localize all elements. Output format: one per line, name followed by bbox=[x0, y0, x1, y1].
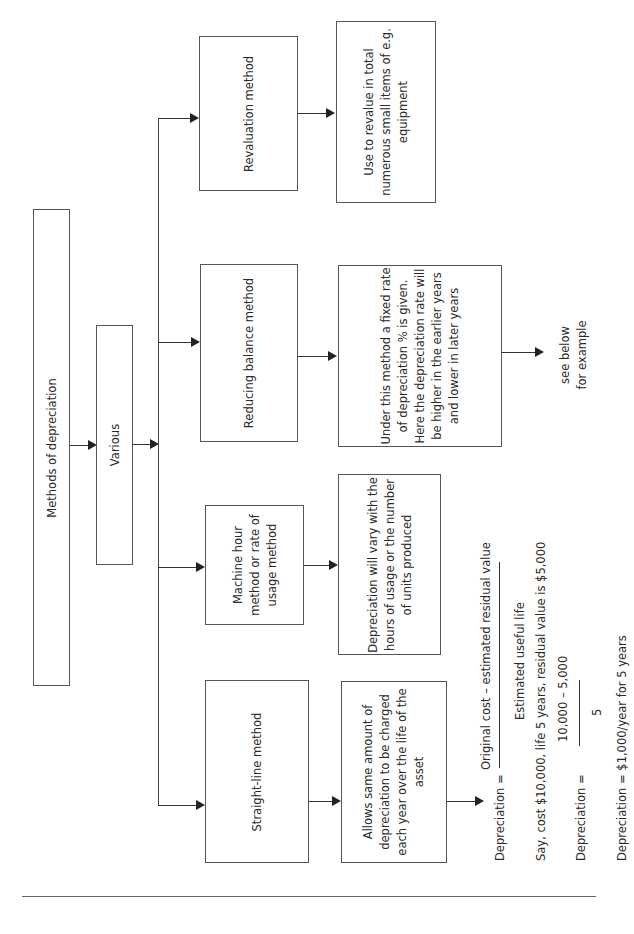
method-node-revaluation: Revaluation method bbox=[199, 36, 298, 191]
formula-lhs: Depreciation = bbox=[493, 774, 507, 861]
method-node-straight-line: Straight-line method bbox=[205, 680, 309, 863]
connector-trunk-to-revaluation bbox=[158, 118, 191, 119]
method-label: Revaluation method bbox=[240, 55, 257, 171]
connector-to-see-below-note bbox=[502, 352, 536, 353]
example-numerator: 10,000 – 5,000 bbox=[556, 656, 570, 742]
formula-denominator: Estimated useful life bbox=[513, 602, 527, 720]
description-line: Depreciation will vary with the bbox=[364, 477, 381, 653]
formula-result: Depreciation = $1,000/year for 5 years bbox=[615, 635, 629, 861]
arrowhead-icon bbox=[326, 108, 335, 118]
arrowhead-icon bbox=[328, 351, 337, 361]
arrowhead-icon bbox=[196, 562, 205, 572]
description-node-reducing-balance: Under this method a fixed rate of deprec… bbox=[338, 265, 502, 447]
description-line: Allows same amount of bbox=[360, 688, 377, 855]
description-line: of units produced bbox=[398, 477, 415, 653]
connector-various-to-trunk bbox=[133, 444, 150, 445]
connector-straight-line-to-description bbox=[309, 801, 333, 802]
connector-trunk-to-straight-line bbox=[158, 805, 197, 806]
various-node: Various bbox=[96, 325, 133, 565]
description-line: of depreciation % is given. bbox=[395, 268, 412, 445]
connector-to-formula bbox=[447, 801, 476, 802]
branch-trunk-line bbox=[158, 118, 159, 806]
description-node-machine-hour: Depreciation will vary with the hours of… bbox=[338, 474, 441, 655]
example-fraction-bar bbox=[579, 680, 580, 746]
arrowhead-icon bbox=[332, 796, 341, 806]
description-line: Use to revalue in total bbox=[361, 28, 378, 196]
connector-revaluation-to-description bbox=[298, 113, 327, 114]
description-line: hours of usage or the number bbox=[381, 477, 398, 653]
note-line: for example bbox=[574, 321, 591, 390]
description-line: each year over the life of the bbox=[394, 688, 411, 855]
connector-machine-hour-to-description bbox=[304, 565, 330, 566]
root-node-methods-of-depreciation: Methods of depreciation bbox=[33, 209, 70, 686]
method-node-reducing-balance: Reducing balance method bbox=[200, 264, 298, 442]
method-label: Straight-line method bbox=[249, 712, 266, 831]
method-node-machine-hour: Machine hour method or rate of usage met… bbox=[205, 505, 304, 625]
description-line: Under this method a fixed rate bbox=[378, 268, 395, 445]
description-line: numerous small items of e.g. bbox=[378, 28, 395, 196]
method-label: usage method bbox=[263, 514, 280, 616]
method-label: Reducing balance method bbox=[241, 278, 258, 428]
description-line: asset bbox=[411, 688, 428, 855]
description-line: and lower in later years bbox=[446, 268, 463, 445]
note-line: see below bbox=[557, 321, 574, 390]
connector-reducing-balance-to-description bbox=[298, 356, 329, 357]
example-denominator: 5 bbox=[590, 709, 604, 716]
connector-trunk-to-reducing-balance bbox=[158, 342, 192, 343]
description-line: Here the depreciation rate will bbox=[412, 268, 429, 445]
description-node-revaluation: Use to revalue in total numerous small i… bbox=[336, 21, 436, 203]
connector-trunk-to-machine-hour bbox=[158, 567, 197, 568]
arrowhead-icon bbox=[190, 113, 199, 123]
method-label: method or rate of bbox=[246, 514, 263, 616]
example-lhs: Depreciation = bbox=[574, 774, 588, 861]
description-line: be higher in the earlier years bbox=[429, 268, 446, 445]
arrowhead-icon bbox=[196, 800, 205, 810]
example-intro: Say, cost $10,000, life 5 years, residua… bbox=[534, 542, 548, 861]
arrowhead-icon bbox=[535, 347, 544, 357]
root-node-label: Methods of depreciation bbox=[43, 378, 60, 517]
description-line: depreciation to be charged bbox=[377, 688, 394, 855]
arrowhead-icon bbox=[475, 796, 484, 806]
various-node-label: Various bbox=[106, 424, 123, 466]
connector-root-to-various bbox=[70, 445, 89, 446]
arrowhead-icon bbox=[329, 560, 338, 570]
description-node-straight-line: Allows same amount of depreciation to be… bbox=[341, 681, 447, 863]
arrowhead-icon bbox=[191, 337, 200, 347]
formula-fraction-bar bbox=[499, 562, 500, 768]
method-label: Machine hour bbox=[229, 514, 246, 616]
page-footer-rule bbox=[22, 896, 596, 897]
description-line: equipment bbox=[395, 28, 412, 196]
see-below-note: see below for example bbox=[546, 305, 602, 405]
formula-numerator: Original cost – estimated residual value bbox=[479, 542, 493, 770]
